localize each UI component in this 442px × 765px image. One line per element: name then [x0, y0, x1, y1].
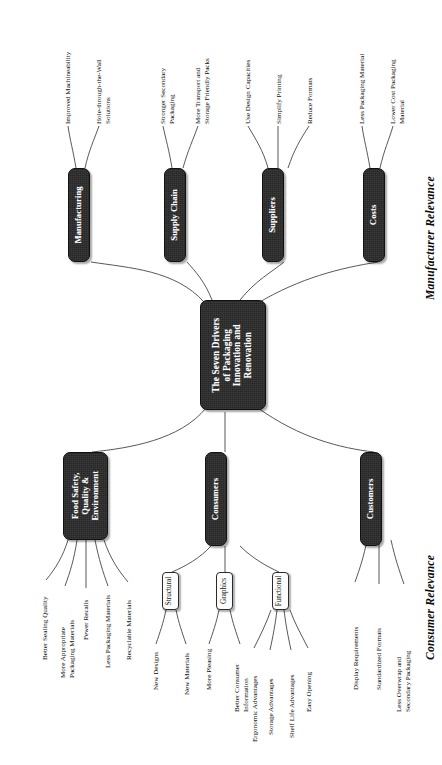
branch-label-customers: Customers	[366, 479, 376, 520]
leaf-less-overwrap-secondary-packaging: Less Overwrap and Secondary Packaging	[395, 651, 412, 712]
branch-label-manufacturing: Manufacturing	[74, 186, 84, 243]
leaf-use-design-capacities: Use Design Capacities	[244, 60, 253, 124]
leaf-hole-through-the-wall-solutions: Hole-through-the-Wall Solutions	[95, 59, 112, 124]
branch-label-supply-chain: Supply Chain	[170, 189, 180, 241]
subnode-functional[interactable]: Functional	[272, 572, 289, 610]
leaf-easy-opening: Easy Opening	[305, 672, 314, 712]
branch-node-supply-chain[interactable]: Supply Chain	[164, 168, 186, 262]
leaf-stronger-secondary-packaging: Stronger Secondary Packaging	[159, 68, 176, 124]
leaf-shelf-life-advantages: Shelf Life Advantages	[288, 675, 297, 738]
leaf-more-appropriate-packaging-materials: More Appropriate Packaging Materials	[59, 620, 76, 678]
leaf-more-pleasing: More Pleasing	[205, 649, 214, 690]
branch-label-food-safety: Food Safety, Quality & Environment	[71, 471, 100, 521]
leaf-recyclable-materials: Recyclable Materials	[125, 600, 134, 660]
central-node-label: The Seven Drivers of Packaging Innovatio…	[212, 317, 254, 392]
leaf-storage-advantages: Storage Advantages	[267, 678, 276, 735]
leaf-ergonomic-advantages: Ergonomic Advantages	[251, 676, 260, 742]
central-node[interactable]: The Seven Drivers of Packaging Innovatio…	[200, 300, 266, 410]
branch-node-consumers[interactable]: Consumers	[205, 452, 227, 546]
leaf-less-packaging-material: Less Packaging Material	[358, 54, 367, 124]
leaf-less-packaging-materials: Less Packaging Materials	[104, 595, 113, 668]
caption-manufacturer-relevance: Manufacturer Relevance	[424, 176, 437, 300]
leaf-lower-cost-packaging-material: Lower Cost Packaging Material	[389, 59, 406, 124]
branch-node-manufacturing[interactable]: Manufacturing	[68, 168, 90, 262]
subnode-label-functional: Functional	[277, 576, 285, 607]
leaf-better-consumer-information: Better Consumer Information	[233, 664, 250, 712]
subnode-label-structural: Structural	[167, 577, 175, 605]
leaf-fewer-recalls: Fewer Recalls	[82, 600, 91, 640]
subnode-structural[interactable]: Structural	[162, 572, 179, 610]
branch-label-costs: Costs	[369, 205, 379, 226]
branch-node-costs[interactable]: Costs	[363, 168, 385, 262]
leaf-better-sealing-quality: Better Sealing Quality	[41, 597, 50, 660]
subnode-graphics[interactable]: Graphics	[216, 572, 233, 610]
leaf-more-transport-storage-friendly-packs: More Transport and Storage Friendly Pack…	[194, 58, 211, 124]
leaf-simplify-printing: Simplify Printing	[275, 75, 284, 124]
subnode-label-graphics: Graphics	[221, 578, 229, 604]
branch-label-suppliers: Suppliers	[268, 197, 278, 233]
leaf-standardized-formats: Standardized Formats	[375, 628, 384, 690]
branch-node-customers[interactable]: Customers	[360, 452, 382, 546]
branch-node-suppliers[interactable]: Suppliers	[262, 168, 284, 262]
branch-node-food-safety[interactable]: Food Safety, Quality & Environment	[63, 452, 108, 540]
leaf-new-designs: New Designs	[152, 652, 161, 690]
leaf-display-requirements: Display Requirements	[352, 627, 361, 690]
leaf-new-materials: New Materials	[183, 653, 192, 695]
leaf-reduce-formats: Reduce Formats	[306, 78, 315, 124]
caption-consumer-relevance: Consumer Relevance	[424, 555, 437, 660]
mindmap-canvas: The Seven Drivers of Packaging Innovatio…	[0, 0, 442, 765]
branch-label-consumers: Consumers	[211, 478, 221, 520]
leaf-improved-machineability: Improved Machineability	[64, 52, 73, 124]
